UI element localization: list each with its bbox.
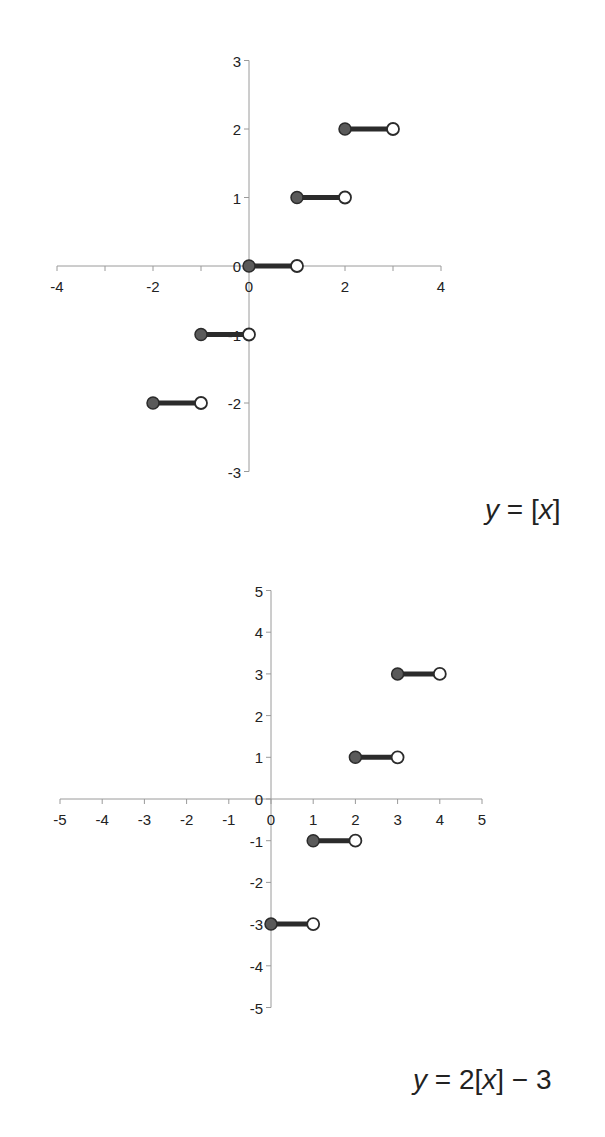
x-tick-label: -2 — [146, 278, 159, 295]
y-tick-label: -3 — [250, 916, 263, 933]
y-tick-label: 5 — [255, 583, 263, 600]
x-tick-label: -2 — [180, 811, 193, 828]
open-endpoint-dot — [349, 835, 361, 847]
x-tick-label: -1 — [222, 811, 235, 828]
open-endpoint-dot — [434, 668, 446, 680]
equation-label-2: y = 2[x] − 3 — [413, 1064, 552, 1096]
equation-label-1: y = [x] — [485, 494, 560, 526]
open-endpoint-dot — [387, 123, 399, 135]
equation-equals: = — [499, 494, 531, 525]
y-tick-label: -2 — [228, 395, 241, 412]
step-segment — [291, 192, 351, 204]
y-tick-label: 3 — [233, 53, 241, 70]
equation-var: x — [539, 494, 553, 525]
y-tick-label: 2 — [233, 121, 241, 138]
y-tick-label: 2 — [255, 708, 263, 725]
x-tick-label: 2 — [351, 811, 359, 828]
equation-var: x — [482, 1064, 496, 1095]
equation-coef: 2 — [459, 1064, 475, 1095]
closed-endpoint-dot — [147, 397, 159, 409]
open-endpoint-dot — [339, 192, 351, 204]
x-tick-label: -3 — [138, 811, 151, 828]
x-tick-label: 0 — [245, 278, 253, 295]
step-segment — [147, 397, 207, 409]
y-tick-label: -4 — [250, 958, 263, 975]
equation-bracket-close: ] — [553, 494, 561, 525]
x-tick-label: 4 — [437, 278, 445, 295]
step-segment — [243, 260, 303, 272]
step-segment — [339, 123, 399, 135]
closed-endpoint-dot — [339, 123, 351, 135]
x-tick-label: -4 — [96, 811, 109, 828]
y-tick-label: -2 — [250, 874, 263, 891]
open-endpoint-dot — [243, 329, 255, 341]
closed-endpoint-dot — [265, 918, 277, 930]
x-tick-label: 2 — [341, 278, 349, 295]
closed-endpoint-dot — [195, 329, 207, 341]
x-tick-label: -5 — [53, 811, 66, 828]
open-endpoint-dot — [392, 751, 404, 763]
y-tick-label: 1 — [233, 190, 241, 207]
equation-lhs: y — [413, 1064, 427, 1095]
x-tick-label: 0 — [267, 811, 275, 828]
closed-endpoint-dot — [291, 192, 303, 204]
equation-bracket-close: ] — [496, 1064, 504, 1095]
x-tick-label: 4 — [436, 811, 444, 828]
step-segment — [349, 751, 403, 763]
y-tick-label: -5 — [250, 1000, 263, 1017]
equation-lhs: y — [485, 494, 499, 525]
equation-equals: = — [427, 1064, 459, 1095]
step-segment — [195, 329, 255, 341]
x-tick-label: -4 — [50, 278, 63, 295]
closed-endpoint-dot — [349, 751, 361, 763]
x-tick-label: 1 — [309, 811, 317, 828]
equation-post: − 3 — [504, 1064, 551, 1095]
closed-endpoint-dot — [307, 835, 319, 847]
step-segment — [265, 918, 319, 930]
y-tick-label: 0 — [255, 791, 263, 808]
open-endpoint-dot — [195, 397, 207, 409]
chart-floor-x: -4-2024-3-2-10123 — [50, 53, 445, 481]
closed-endpoint-dot — [243, 260, 255, 272]
chart-canvas: -4-2024-3-2-10123 -5-4-3-2-1012345-5-4-3… — [0, 0, 605, 1137]
step-segment — [392, 668, 446, 680]
y-tick-label: -3 — [228, 464, 241, 481]
open-endpoint-dot — [307, 918, 319, 930]
y-tick-label: 4 — [255, 624, 263, 641]
y-tick-label: 1 — [255, 749, 263, 766]
x-tick-label: 5 — [478, 811, 486, 828]
y-tick-label: -1 — [250, 833, 263, 850]
y-tick-label: 3 — [255, 666, 263, 683]
y-tick-label: 0 — [233, 258, 241, 275]
step-segment — [307, 835, 361, 847]
x-tick-label: 3 — [393, 811, 401, 828]
open-endpoint-dot — [291, 260, 303, 272]
equation-bracket-open: [ — [531, 494, 539, 525]
closed-endpoint-dot — [392, 668, 404, 680]
chart-2-floor-x-minus-3: -5-4-3-2-1012345-5-4-3-2-1012345 — [53, 583, 486, 1017]
